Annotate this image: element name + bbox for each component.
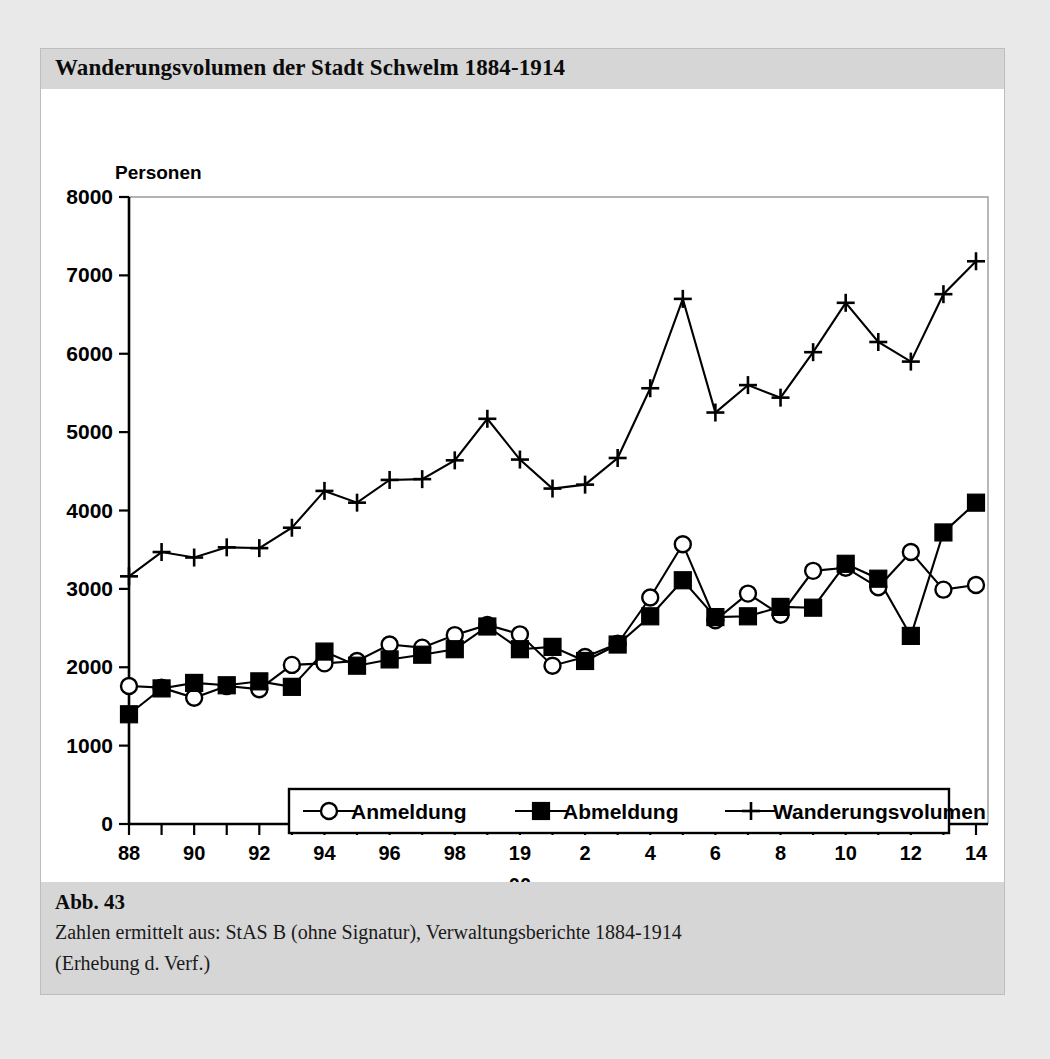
x-tick-label: 90 [183, 842, 205, 864]
data-point-abmeldung [772, 598, 789, 615]
data-point-abmeldung [511, 641, 528, 658]
data-point-abmeldung [251, 673, 268, 690]
data-point-abmeldung [902, 627, 919, 644]
y-tick-label: 2000 [66, 655, 113, 678]
data-point-anmeldung [382, 637, 398, 653]
data-point-anmeldung [805, 563, 821, 579]
data-point-abmeldung [121, 706, 138, 723]
data-point-abmeldung [316, 643, 333, 660]
page-root: Wanderungsvolumen der Stadt Schwelm 1884… [0, 0, 1050, 1059]
y-tick-label: 8000 [66, 185, 113, 208]
data-point-abmeldung [381, 651, 398, 668]
data-point-abmeldung [283, 678, 300, 695]
x-tick-label: 12 [900, 842, 922, 864]
data-point-abmeldung [544, 638, 561, 655]
caption-figure-number: Abb. 43 [55, 890, 125, 915]
legend-marker-open-circle [321, 803, 337, 819]
data-point-abmeldung [577, 652, 594, 669]
data-point-abmeldung [446, 641, 463, 658]
data-point-abmeldung [186, 674, 203, 691]
data-point-abmeldung [609, 636, 626, 653]
figure-caption-bar: Abb. 43 Zahlen ermittelt aus: StAS B (oh… [41, 882, 1004, 994]
data-point-abmeldung [642, 608, 659, 625]
x-tick-label: 4 [645, 842, 657, 864]
data-point-abmeldung [805, 599, 822, 616]
data-point-anmeldung [512, 626, 528, 642]
figure-title-bar: Wanderungsvolumen der Stadt Schwelm 1884… [41, 49, 1004, 89]
y-tick-label: 0 [101, 812, 113, 835]
x-tick-label: 10 [835, 842, 857, 864]
data-point-anmeldung [740, 586, 756, 602]
figure-container: Wanderungsvolumen der Stadt Schwelm 1884… [40, 48, 1005, 995]
data-point-abmeldung [674, 572, 691, 589]
x-tick-label: 92 [248, 842, 270, 864]
y-tick-label: 3000 [66, 577, 113, 600]
data-point-abmeldung [968, 494, 985, 511]
x-tick-label: 88 [118, 842, 140, 864]
data-point-abmeldung [218, 677, 235, 694]
data-point-abmeldung [153, 680, 170, 697]
data-point-abmeldung [414, 646, 431, 663]
data-point-anmeldung [545, 658, 561, 674]
data-point-anmeldung [675, 536, 691, 552]
y-tick-label: 7000 [66, 263, 113, 286]
data-point-anmeldung [284, 657, 300, 673]
x-tick-label: 14 [965, 842, 988, 864]
y-tick-label: 4000 [66, 499, 113, 522]
data-point-anmeldung [968, 577, 984, 593]
legend-label-wanderungsvolumen: Wanderungsvolumen [773, 800, 986, 823]
y-tick-label: 1000 [66, 734, 113, 757]
data-point-abmeldung [837, 555, 854, 572]
data-point-abmeldung [479, 618, 496, 635]
data-point-abmeldung [349, 657, 366, 674]
legend-label-abmeldung: Abmeldung [563, 800, 679, 823]
data-point-anmeldung [935, 582, 951, 598]
caption-attribution-line: (Erhebung d. Verf.) [55, 952, 210, 975]
line-chart: 010002000300040005000600070008000Persone… [41, 89, 1006, 884]
y-axis-title: Personen [115, 162, 202, 183]
caption-source-line: Zahlen ermittelt aus: StAS B (ohne Signa… [55, 921, 682, 944]
data-point-anmeldung [642, 589, 658, 605]
data-point-abmeldung [935, 524, 952, 541]
plot-frame [129, 197, 988, 824]
data-point-abmeldung [739, 608, 756, 625]
data-point-abmeldung [870, 570, 887, 587]
x-tick-label: 8 [775, 842, 786, 864]
x-tick-label: 19 [509, 842, 531, 864]
x-tick-label: 6 [710, 842, 721, 864]
legend-marker-filled-square [533, 803, 550, 820]
figure-title: Wanderungsvolumen der Stadt Schwelm 1884… [55, 55, 565, 81]
data-point-anmeldung [121, 678, 137, 694]
x-tick-label: 96 [378, 842, 400, 864]
y-tick-label: 5000 [66, 420, 113, 443]
series-line-wanderungsvolumen [129, 261, 976, 576]
data-point-abmeldung [707, 609, 724, 626]
legend-label-anmeldung: Anmeldung [351, 800, 467, 823]
x-tick-label: 98 [444, 842, 466, 864]
y-tick-label: 6000 [66, 342, 113, 365]
x-tick-label: 94 [313, 842, 336, 864]
data-point-anmeldung [186, 690, 202, 706]
data-point-anmeldung [903, 544, 919, 560]
x-tick-label: 2 [580, 842, 591, 864]
